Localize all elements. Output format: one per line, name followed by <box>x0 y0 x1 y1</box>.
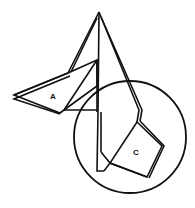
fin-a-edge-inner <box>14 76 70 114</box>
label-a: A <box>50 92 56 101</box>
fin-a-edge <box>14 73 68 95</box>
fin-c-root <box>104 163 110 171</box>
diagram-canvas: A C <box>0 0 195 208</box>
mast-line <box>98 12 99 112</box>
right-edge <box>99 12 139 122</box>
label-c: C <box>133 148 139 157</box>
line-drawing <box>0 0 195 208</box>
left-edge-inner <box>71 18 97 72</box>
highlight-circle <box>74 81 186 193</box>
